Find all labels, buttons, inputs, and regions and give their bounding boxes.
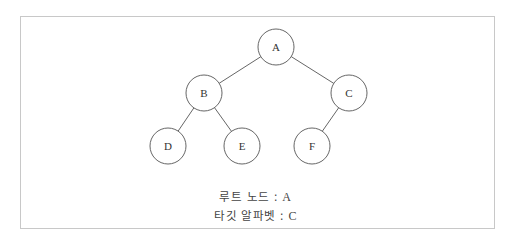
node-label: F: [309, 140, 315, 152]
node-label: B: [200, 87, 207, 99]
tree-node-e: E: [224, 128, 260, 164]
tree-node-a: A: [258, 29, 294, 65]
root-node-label: 루트 노드: [219, 190, 269, 204]
edge-b-e: [214, 108, 231, 132]
caption-separator: :: [276, 209, 289, 223]
node-label: D: [164, 140, 172, 152]
root-node-caption: 루트 노드 : A: [0, 188, 511, 205]
root-node-value: A: [282, 190, 291, 204]
target-alphabet-value: C: [288, 209, 297, 223]
target-alphabet-caption: 타깃 알파벳 : C: [0, 207, 511, 224]
node-label: C: [345, 87, 352, 99]
tree-nodes: ABCDEF: [150, 29, 367, 164]
node-label: A: [272, 41, 280, 53]
edge-c-f: [322, 108, 338, 131]
tree-node-d: D: [150, 128, 186, 164]
target-alphabet-label: 타깃 알파벳: [214, 209, 276, 223]
edge-b-d: [178, 108, 194, 131]
tree-node-c: C: [331, 75, 367, 111]
node-label: E: [239, 140, 246, 152]
caption-separator: :: [270, 190, 283, 204]
tree-node-f: F: [294, 128, 330, 164]
edge-a-c: [291, 57, 334, 84]
tree-node-b: B: [186, 75, 222, 111]
edge-a-b: [219, 57, 261, 84]
